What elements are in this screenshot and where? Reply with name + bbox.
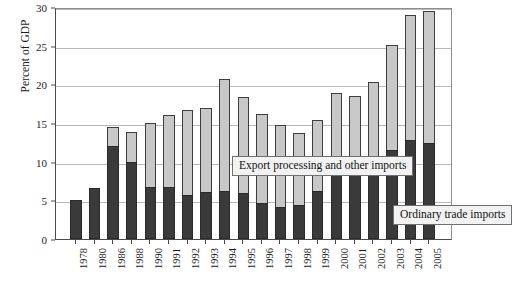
bar-1998 <box>293 133 305 239</box>
bar-segment-ordinary-trade <box>368 170 380 239</box>
x-tick-label-1992: 1992 <box>191 248 202 269</box>
x-tick-label-1980: 1980 <box>98 248 109 269</box>
x-tick-label-1996: 1996 <box>265 248 276 269</box>
x-tick-label-1986: 1986 <box>117 248 128 269</box>
bar-segment-ordinary-trade <box>145 187 157 239</box>
legend-ordinary-trade: Ordinary trade imports <box>393 205 512 225</box>
x-tick-label-1998: 1998 <box>303 248 314 269</box>
bar-segment-ordinary-trade <box>275 207 287 239</box>
x-tick-mark <box>428 240 429 244</box>
bar-segment-export-processing <box>182 110 194 195</box>
bar-1980 <box>89 188 101 239</box>
bar-1986 <box>107 127 119 239</box>
x-tick-mark <box>372 240 373 244</box>
bar-segment-export-processing <box>107 127 119 146</box>
plot-area: Export processing and other imports Ordi… <box>55 8 452 240</box>
x-tick-mark <box>261 240 262 244</box>
legend-export-processing: Export processing and other imports <box>232 156 413 176</box>
bar-segment-ordinary-trade <box>312 191 324 239</box>
bar-1997 <box>275 125 287 239</box>
x-tick-mark <box>224 240 225 244</box>
x-tick-mark <box>317 240 318 244</box>
bar-segment-ordinary-trade <box>200 192 212 239</box>
x-tick-mark <box>187 240 188 244</box>
x-tick-label-1999: 1999 <box>321 248 332 269</box>
bar-segment-export-processing <box>423 11 435 143</box>
x-tick-mark <box>94 240 95 244</box>
bar-segment-ordinary-trade <box>107 146 119 239</box>
y-tick-label: 15 <box>36 119 47 130</box>
bar-1993 <box>200 108 212 239</box>
x-tick-label-1990: 1990 <box>154 248 165 269</box>
x-tick-mark <box>335 240 336 244</box>
x-tick-mark <box>410 240 411 244</box>
x-tick-label-2002: 2002 <box>377 248 388 269</box>
bar-segment-ordinary-trade <box>70 200 82 239</box>
bar-segment-ordinary-trade <box>182 195 194 239</box>
x-tick-mark <box>242 240 243 244</box>
bar-segment-ordinary-trade <box>163 187 175 239</box>
bar-1991 <box>163 115 175 240</box>
bar-segment-ordinary-trade <box>349 173 361 240</box>
x-tick-mark <box>205 240 206 244</box>
y-tick-label: 30 <box>36 3 47 14</box>
x-tick-mark <box>298 240 299 244</box>
bar-segment-ordinary-trade <box>293 205 305 239</box>
bar-segment-export-processing <box>219 79 231 191</box>
x-tick-label-2005: 2005 <box>433 248 444 269</box>
y-tick-label: 25 <box>36 41 47 52</box>
x-tick-label-2003: 2003 <box>396 248 407 269</box>
y-tick-label: 0 <box>42 235 48 246</box>
x-tick-label-2001: 2001 <box>358 248 369 269</box>
bar-segment-export-processing <box>405 15 417 140</box>
x-tick-mark <box>391 240 392 244</box>
x-axis: 1978198019861988199019911992199319941995… <box>55 240 452 295</box>
bar-1996 <box>256 114 268 239</box>
bar-segment-ordinary-trade <box>89 188 101 239</box>
bar-segment-ordinary-trade <box>256 203 268 239</box>
y-tick-label: 5 <box>42 196 48 207</box>
bar-segment-export-processing <box>126 132 138 161</box>
x-tick-mark <box>354 240 355 244</box>
bar-segment-export-processing <box>238 97 250 193</box>
x-tick-label-1993: 1993 <box>210 248 221 269</box>
bar-1999 <box>312 120 324 239</box>
bar-1990 <box>145 123 157 239</box>
x-tick-label-1995: 1995 <box>247 248 258 269</box>
bar-segment-ordinary-trade <box>219 191 231 239</box>
bar-1978 <box>70 200 82 239</box>
x-tick-label-1997: 1997 <box>284 248 295 269</box>
y-axis-title: Percent of GDP <box>19 0 31 136</box>
x-tick-mark <box>149 240 150 244</box>
bars-layer <box>56 9 451 239</box>
bar-segment-ordinary-trade <box>126 162 138 239</box>
x-tick-mark <box>168 240 169 244</box>
y-tick-label: 20 <box>36 80 47 91</box>
x-tick-mark <box>279 240 280 244</box>
bar-segment-export-processing <box>200 108 212 192</box>
x-tick-mark <box>112 240 113 244</box>
bar-1994 <box>219 79 231 239</box>
y-axis: Percent of GDP 051015202530 <box>0 0 55 248</box>
bar-segment-export-processing <box>386 45 398 150</box>
x-tick-label-1994: 1994 <box>228 248 239 269</box>
x-tick-label-1988: 1988 <box>135 248 146 269</box>
x-tick-mark <box>131 240 132 244</box>
x-tick-label-1978: 1978 <box>79 248 90 269</box>
bar-1992 <box>182 110 194 239</box>
bar-segment-export-processing <box>163 115 175 188</box>
x-tick-label-2000: 2000 <box>340 248 351 269</box>
bar-segment-export-processing <box>145 123 157 187</box>
x-tick-label-2004: 2004 <box>414 248 425 269</box>
bar-segment-ordinary-trade <box>331 173 343 240</box>
bar-1988 <box>126 132 138 239</box>
bar-segment-ordinary-trade <box>238 193 250 239</box>
x-tick-mark <box>75 240 76 244</box>
y-tick-label: 10 <box>36 157 47 168</box>
x-tick-label-1991: 1991 <box>172 248 183 269</box>
